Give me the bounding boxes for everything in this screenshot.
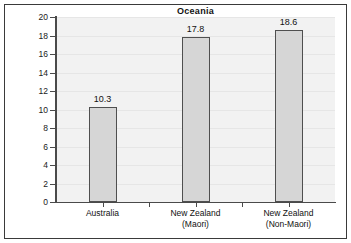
y-axis-tick: [50, 36, 55, 37]
y-axis-tick: [50, 202, 55, 203]
bar-value-label: 17.8: [166, 25, 226, 34]
y-axis-tick-label: 6: [8, 142, 48, 151]
y-axis-tick: [50, 165, 55, 166]
bar-value-label: 10.3: [73, 95, 133, 104]
x-axis-category-line: New Zealand: [234, 208, 344, 219]
x-axis-tick: [103, 203, 104, 207]
y-axis-tick-label: 20: [8, 13, 48, 22]
y-axis-tick-label: 2: [8, 179, 48, 188]
y-axis-tick: [50, 184, 55, 185]
x-axis-tick: [289, 203, 290, 207]
bar: [89, 107, 117, 202]
y-axis-tick-label: 4: [8, 161, 48, 170]
y-axis-tick-label: 14: [8, 68, 48, 77]
y-axis-tick: [50, 128, 55, 129]
y-axis-tick-label: 18: [8, 31, 48, 40]
y-axis-tick-label: 8: [8, 124, 48, 133]
x-axis-boundary-tick: [149, 203, 150, 207]
y-axis-tick: [50, 17, 55, 18]
y-axis-tick-label: 10: [8, 105, 48, 114]
y-axis-line: [55, 16, 57, 203]
y-axis-tick-label: 16: [8, 50, 48, 59]
y-axis-tick: [50, 147, 55, 148]
y-axis-tick: [50, 110, 55, 111]
y-axis-tick: [50, 54, 55, 55]
y-axis-tick: [50, 91, 55, 92]
bar: [182, 37, 210, 202]
x-axis-category-label: New Zealand(Non-Maori): [234, 208, 344, 229]
bar: [275, 30, 303, 202]
chart-figure: Oceania Annual rates per million childre…: [0, 0, 351, 243]
y-axis-tick-label: 12: [8, 87, 48, 96]
x-axis-tick: [196, 203, 197, 207]
x-axis-boundary-tick: [242, 203, 243, 207]
chart-title: Oceania: [56, 6, 335, 16]
y-axis-tick-label: 0: [8, 198, 48, 207]
y-axis-tick: [50, 73, 55, 74]
bar-value-label: 18.6: [259, 18, 319, 27]
x-axis-category-line: (Non-Maori): [234, 219, 344, 230]
